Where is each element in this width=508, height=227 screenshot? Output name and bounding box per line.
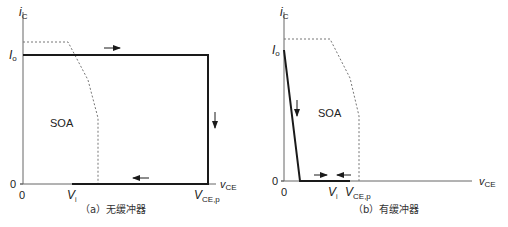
panel-a-without-snubber: iC Io 0 0 Vi VCE,p vCE SOA （a）无缓冲器 xyxy=(9,5,237,215)
caption-b: （b）有缓冲器 xyxy=(353,203,419,215)
y-axis-label-a: iC xyxy=(19,5,28,21)
soa-label-b: SOA xyxy=(318,107,342,119)
x-zero-label-b: 0 xyxy=(281,186,287,198)
caption-a: （a）无缓冲器 xyxy=(80,203,146,215)
panel-b-with-snubber: iC Io 0 0 Vi VCE,p vCE SOA （b）有缓冲器 xyxy=(272,5,496,215)
vi-label-a: Vi xyxy=(67,188,77,203)
x-zero-label-a: 0 xyxy=(19,189,25,201)
vi-label-b: Vi xyxy=(328,185,338,200)
y-zero-label-b: 0 xyxy=(272,175,278,187)
soa-label-a: SOA xyxy=(50,117,74,129)
io-label-b: Io xyxy=(272,43,280,58)
x-axis-label-b: vCE xyxy=(479,175,496,189)
vcep-label-b: VCE,p xyxy=(345,185,371,201)
soa-boundary-a xyxy=(23,42,98,184)
y-axis-label-b: iC xyxy=(280,5,289,21)
vcep-label-a: VCE,p xyxy=(194,188,220,204)
io-label-a: Io xyxy=(9,48,17,63)
snubber-soa-diagram: iC Io 0 0 Vi VCE,p vCE SOA （a）无缓冲器 iC Io… xyxy=(0,0,508,227)
y-zero-label-a: 0 xyxy=(10,178,16,190)
x-axis-label-a: vCE xyxy=(220,178,237,192)
